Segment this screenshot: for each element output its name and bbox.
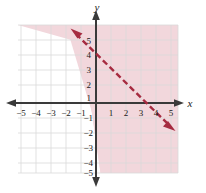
solution-region (18, 25, 178, 173)
y-tick-label: −1 (83, 113, 93, 123)
y-tick-label: 2 (87, 80, 92, 90)
x-tick-label: 4 (154, 108, 159, 118)
y-tick-label: −3 (83, 143, 93, 153)
y-tick-label: 4 (87, 50, 92, 60)
x-tick-label: −3 (46, 108, 56, 118)
x-tick-label: 3 (139, 108, 144, 118)
x-tick-label: −2 (61, 108, 71, 118)
x-tick-label: 2 (124, 108, 129, 118)
y-tick-label: 5 (87, 36, 92, 46)
x-tick-label: −5 (16, 108, 26, 118)
coordinate-plane-graph: −5 −4 −3 −2 −1 1 2 3 4 5 5 4 3 2 1 −1 −2… (0, 0, 206, 193)
y-tick-label: 1 (87, 93, 92, 103)
x-axis-label: x (187, 97, 193, 109)
y-tick-label: −2 (83, 128, 93, 138)
y-tick-label: −5 (83, 168, 93, 178)
y-tick-label: 3 (87, 65, 92, 75)
x-tick-label: 5 (169, 108, 174, 118)
graph-svg: −5 −4 −3 −2 −1 1 2 3 4 5 5 4 3 2 1 −1 −2… (0, 0, 206, 193)
x-tick-label: 1 (109, 108, 114, 118)
y-axis-label: y (94, 1, 100, 13)
x-tick-label: −4 (31, 108, 41, 118)
y-tick-label: −4 (83, 158, 93, 168)
